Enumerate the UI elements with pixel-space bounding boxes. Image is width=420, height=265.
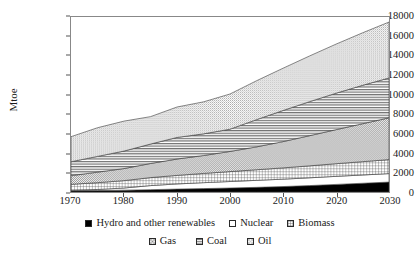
legend-row: Hydro and other renewablesNuclearBiomass [0, 214, 420, 232]
legend-item[interactable]: Nuclear [229, 218, 273, 229]
legend-swatch-icon [287, 220, 294, 227]
legend-label: Biomass [298, 218, 334, 229]
legend-label: Hydro and other renewables [96, 218, 215, 229]
chart-legend: Hydro and other renewablesNuclearBiomass… [0, 214, 420, 250]
x-axis-tick-mark [230, 193, 231, 197]
energy-demand-area-chart: Mtoe 02000400060008000100001200014000160… [0, 0, 420, 265]
stacked-area-svg [71, 17, 389, 192]
legend-label: Coal [207, 236, 227, 247]
y-axis-label-text: Mtoe [7, 88, 19, 111]
x-axis-tick-label: 1970 [60, 196, 81, 207]
legend-item[interactable]: Biomass [287, 218, 334, 229]
legend-item[interactable]: Hydro and other renewables [85, 218, 215, 229]
legend-label: Oil [258, 236, 271, 247]
x-axis-tick-mark [123, 193, 124, 197]
x-axis-tick-label: 2000 [220, 196, 241, 207]
legend-item[interactable]: Oil [247, 236, 271, 247]
legend-swatch-icon [85, 220, 92, 227]
y-axis-label: Mtoe [2, 0, 24, 200]
legend-row: GasCoalOil [0, 232, 420, 250]
x-axis-tick-mark [177, 193, 178, 197]
x-axis-tick-label: 2020 [326, 196, 347, 207]
series-bands [71, 22, 389, 192]
legend-label: Nuclear [240, 218, 273, 229]
legend-swatch-icon [229, 220, 236, 227]
legend-item[interactable]: Gas [149, 236, 176, 247]
x-axis-tick-mark [283, 193, 284, 197]
legend-item[interactable]: Coal [196, 236, 227, 247]
x-axis-tick-label: 2010 [273, 196, 294, 207]
legend-swatch-icon [247, 238, 254, 245]
plot-area [70, 16, 390, 193]
x-axis-tick-mark [337, 193, 338, 197]
x-axis-tick-label: 2030 [380, 196, 401, 207]
x-axis-tick-label: 1990 [166, 196, 187, 207]
legend-swatch-icon [196, 238, 203, 245]
x-axis-tick-label: 1980 [113, 196, 134, 207]
legend-swatch-icon [149, 238, 156, 245]
legend-label: Gas [160, 236, 176, 247]
